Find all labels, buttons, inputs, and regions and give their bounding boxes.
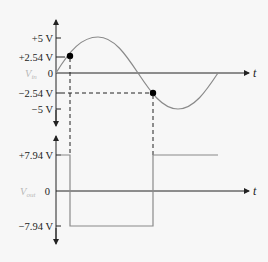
tick-label-plus794: +7.94 V [19,150,54,161]
top-zero-label: 0 [48,68,53,79]
tick-label-minus794: −7.94 V [19,221,54,232]
tick-label-plus5: +5 V [32,33,54,44]
tick-label-plus254: +2.54 V [19,52,54,63]
tick-label-minus5: −5 V [32,104,54,115]
bottom-plot: t +7.94 V −7.94 V 0 Vout [19,136,257,244]
bottom-zero-label: 0 [45,186,50,197]
vout-label: Vout [20,186,36,199]
schmitt-trigger-waveform-diagram: t +5 V +2.54 V −2.54 V −5 V 0 Vin t +7.9… [0,0,268,262]
top-time-label: t [253,66,257,80]
top-plot: t +5 V +2.54 V −2.54 V −5 V 0 Vin [19,20,257,126]
diagram-canvas: t +5 V +2.54 V −2.54 V −5 V 0 Vin t +7.9… [0,0,268,262]
bottom-time-label: t [253,184,257,198]
tick-label-minus254: −2.54 V [19,88,54,99]
vin-label: Vin [25,68,37,81]
